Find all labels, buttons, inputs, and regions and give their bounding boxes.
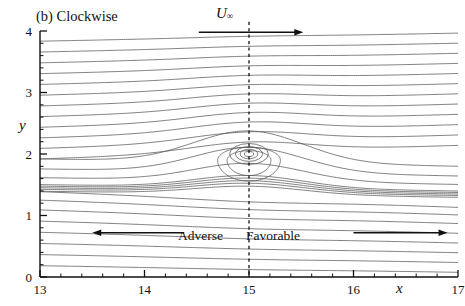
y-tick-label: 1 bbox=[26, 208, 33, 223]
adverse-arrow-head bbox=[92, 229, 101, 236]
freestream-arrow-head bbox=[294, 29, 303, 36]
x-tick-label: 15 bbox=[243, 282, 256, 297]
streamline-figure: 131415161701234 bbox=[0, 0, 465, 306]
freestream-symbol: U bbox=[216, 5, 227, 21]
x-tick-label: 13 bbox=[34, 282, 47, 297]
y-tick-label: 0 bbox=[26, 270, 33, 285]
x-axis-label: x bbox=[396, 281, 403, 296]
y-tick-label: 3 bbox=[26, 85, 33, 100]
x-tick-label: 16 bbox=[347, 282, 361, 297]
panel-label: (b) Clockwise bbox=[36, 9, 118, 24]
y-axis-label: y bbox=[19, 118, 26, 133]
favorable-arrow-head bbox=[439, 229, 448, 236]
y-tick-label: 2 bbox=[26, 147, 33, 162]
x-tick-label: 14 bbox=[138, 282, 152, 297]
adverse-region-label: Adverse bbox=[178, 229, 223, 243]
x-tick-label: 17 bbox=[452, 282, 465, 297]
freestream-velocity-label: U∞ bbox=[216, 6, 233, 21]
freestream-subscript: ∞ bbox=[227, 11, 233, 21]
y-tick-label: 4 bbox=[26, 24, 33, 39]
favorable-region-label: Favorable bbox=[246, 229, 300, 243]
